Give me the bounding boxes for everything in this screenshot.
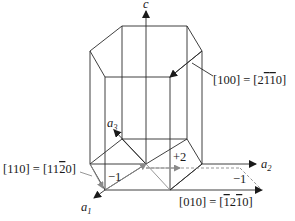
a1-axis: a1 xyxy=(81,190,105,216)
c-axis-label: c xyxy=(143,0,149,11)
label-010: [010] = [1210] xyxy=(179,195,253,209)
hexagonal-cell-diagram: c a3 a1 a2 [100] = [2110] [110] xyxy=(0,0,295,221)
direction-100-pointer xyxy=(170,51,213,77)
a3-axis: a3 xyxy=(107,116,146,164)
a2-axis-label: a2 xyxy=(261,157,272,173)
direction-110-leader xyxy=(80,172,92,176)
step-minus1-a1: −1 xyxy=(108,170,121,184)
a3-axis-label: a3 xyxy=(107,116,118,132)
label-110: [110] = [1120] xyxy=(3,162,76,176)
label-100: [100] = [2110] xyxy=(213,73,286,87)
step-plus2: +2 xyxy=(173,150,186,164)
diagram-canvas: c a3 a1 a2 [100] = [2110] [110] xyxy=(0,0,295,221)
step-minus1-a2: −1 xyxy=(233,172,246,186)
a1-axis-label: a1 xyxy=(81,200,92,216)
a2-axis: a2 xyxy=(202,157,272,173)
